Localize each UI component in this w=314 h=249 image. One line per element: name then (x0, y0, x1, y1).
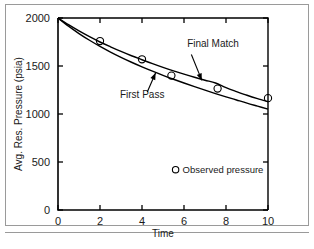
chart-canvas: 0500100015002000 0246810 Avg. Res. Press… (0, 0, 314, 249)
y-tick-label: 1000 (26, 108, 50, 120)
x-tick-label: 0 (55, 215, 61, 227)
x-axis-tick-labels: 0246810 (55, 215, 274, 227)
annotation-first-pass-arrowhead (150, 73, 155, 80)
data-point-observed-pressure (214, 85, 221, 92)
legend-label-observed-pressure: Observed pressure (183, 164, 264, 175)
y-axis-tick-labels: 0500100015002000 (26, 12, 50, 216)
y-axis-title: Avg. Res. Pressure (psia) (13, 57, 24, 171)
x-tick-label: 6 (181, 215, 187, 227)
legend: Observed pressure (172, 164, 263, 175)
x-tick-label: 2 (97, 215, 103, 227)
x-axis-title: Time (152, 228, 174, 239)
figure-container: 0500100015002000 0246810 Avg. Res. Press… (0, 0, 314, 249)
legend-marker-open-circle (172, 166, 178, 172)
y-tick-label: 1500 (26, 60, 50, 72)
y-tick-label: 2000 (26, 12, 50, 24)
x-tick-label: 8 (223, 215, 229, 227)
y-tick-label: 0 (44, 204, 50, 216)
annotation-final-match: Final Match (187, 38, 239, 81)
annotation-first-pass: First Pass (120, 73, 164, 100)
x-tick-label: 10 (262, 215, 274, 227)
x-tick-label: 4 (139, 215, 145, 227)
annotation-final-match-label: Final Match (187, 38, 239, 49)
annotation-first-pass-label: First Pass (120, 89, 164, 100)
y-tick-label: 500 (32, 156, 50, 168)
